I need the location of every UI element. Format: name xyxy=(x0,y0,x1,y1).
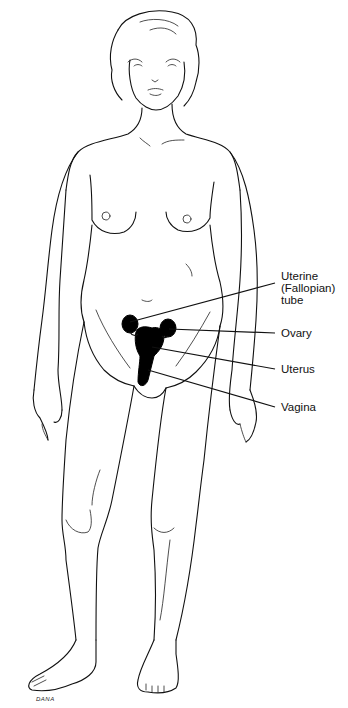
leader-uterus xyxy=(152,347,275,369)
artist-signature: DANA xyxy=(36,696,55,702)
leader-vagina xyxy=(148,370,275,407)
head xyxy=(110,11,199,110)
label-vagina: Vagina xyxy=(281,401,316,413)
legs xyxy=(29,322,220,693)
leader-ovary xyxy=(169,329,275,333)
female-figure-illustration xyxy=(0,0,348,708)
label-uterus: Uterus xyxy=(281,363,315,375)
label-ovary: Ovary xyxy=(281,327,312,339)
label-fallopian-tube: Uterine (Fallopian) tube xyxy=(281,270,335,306)
leader-fallopian-tube xyxy=(130,283,275,322)
